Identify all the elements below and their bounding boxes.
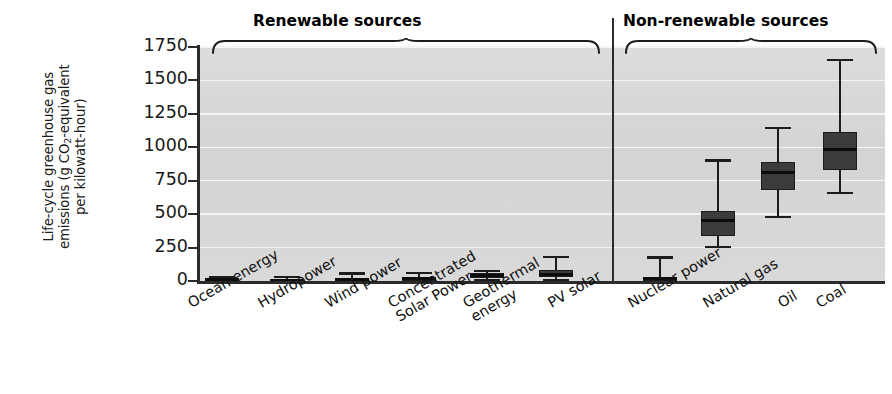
whisker-cap-lower: [827, 192, 853, 194]
x-axis-label-oil: Oil: [775, 287, 800, 311]
y-axis-tick: [188, 113, 198, 115]
y-axis-title-subscript: 2: [62, 138, 73, 144]
non-renewable-brace-icon: [624, 38, 878, 54]
y-axis-title-line-2a: emissions (g CO: [57, 144, 72, 249]
whisker-cap-upper: [647, 256, 673, 258]
boxplot-coal: [800, 47, 880, 281]
group-divider-line: [612, 18, 614, 283]
y-axis-title-line-1: Life-cycle greenhouse gas: [41, 72, 56, 242]
whisker-cap-upper: [765, 127, 791, 129]
y-axis-tick-label: 0: [118, 269, 188, 289]
y-axis-title-line-2b: -equivalent: [57, 64, 72, 137]
whisker-cap-upper: [705, 159, 731, 161]
renewable-brace-icon: [211, 38, 601, 54]
y-axis-tick-label: 1750: [118, 35, 188, 55]
y-axis-title-line-3: per kilowatt-hour): [73, 98, 88, 215]
whisker-cap-upper: [827, 59, 853, 61]
y-axis-title: Life-cycle greenhouse gas emissions (g C…: [41, 32, 89, 282]
median-line: [761, 171, 795, 174]
y-axis-tick-label: 1250: [118, 102, 188, 122]
y-axis-tick-label: 500: [118, 202, 188, 222]
chart-root: Life-cycle greenhouse gas emissions (g C…: [0, 0, 892, 394]
y-axis-tick-label: 1500: [118, 68, 188, 88]
y-axis-tick: [188, 46, 198, 48]
y-axis-tick: [188, 213, 198, 215]
median-line: [823, 148, 857, 151]
y-axis-tick: [188, 146, 198, 148]
y-axis-tick: [188, 180, 198, 182]
median-line: [701, 219, 735, 222]
whisker-line: [839, 60, 841, 193]
y-axis-tick-label: 750: [118, 169, 188, 189]
box-iqr: [701, 211, 735, 236]
y-axis-tick: [188, 79, 198, 81]
group-heading-non-renewable: Non-renewable sources: [623, 12, 828, 30]
y-axis-tick: [188, 247, 198, 249]
box-iqr: [761, 162, 795, 190]
y-axis-tick-label: 250: [118, 236, 188, 256]
y-axis-tick: [188, 280, 198, 282]
whisker-cap-lower: [765, 216, 791, 218]
y-axis-tick-label: 1000: [118, 135, 188, 155]
y-axis-title-area: Life-cycle greenhouse gas emissions (g C…: [0, 28, 120, 298]
group-heading-renewable: Renewable sources: [253, 12, 422, 30]
x-axis-label-coal: Coal: [813, 281, 849, 311]
plot-area: [200, 47, 885, 281]
